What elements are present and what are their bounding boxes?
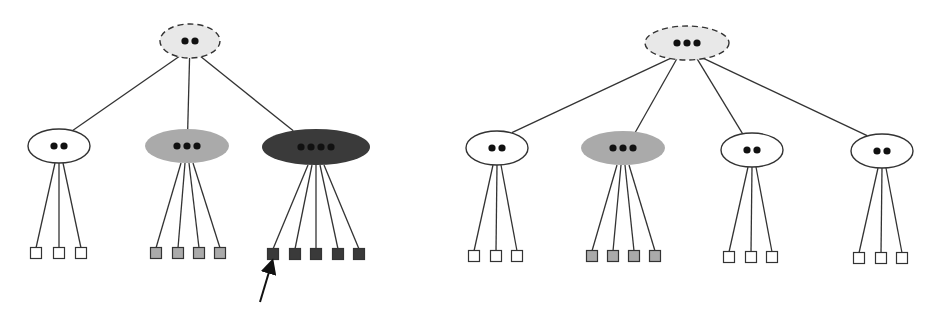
tree-edge — [188, 56, 190, 130]
tree-diagrams-canvas — [0, 0, 940, 318]
leaf-square — [194, 248, 205, 259]
right-tree-child-node-3 — [721, 133, 783, 167]
leaf-edge — [592, 165, 617, 251]
item-dot — [191, 37, 198, 44]
item-dot — [673, 39, 680, 46]
left-tree-child-node-1 — [28, 129, 90, 163]
left-tree-root-node — [160, 24, 220, 58]
leaf-square — [31, 248, 42, 259]
left-tree-child-node-3 — [262, 129, 370, 165]
item-dot — [183, 142, 190, 149]
node-ellipse — [160, 24, 220, 58]
leaf-edge — [756, 167, 772, 252]
leaf-square — [268, 249, 279, 260]
tree-edge — [635, 58, 677, 132]
item-dot — [883, 147, 890, 154]
leaf-edge — [729, 167, 748, 252]
node-ellipse — [28, 129, 90, 163]
leaf-square — [587, 251, 598, 262]
leaf-square — [650, 251, 661, 262]
pointer-arrow-icon — [260, 262, 272, 302]
item-dot — [693, 39, 700, 46]
leaf-square — [311, 249, 322, 260]
left-tree-child-node-2 — [145, 129, 229, 163]
leaf-square — [854, 253, 865, 264]
node-ellipse — [851, 134, 913, 168]
leaf-square — [215, 248, 226, 259]
leaf-edge — [63, 163, 81, 248]
leaf-edge — [295, 165, 312, 249]
leaf-square — [629, 251, 640, 262]
right-tree-child-node-4 — [851, 134, 913, 168]
leaf-square — [290, 249, 301, 260]
item-dot — [683, 39, 690, 46]
item-dot — [743, 146, 750, 153]
item-dot — [753, 146, 760, 153]
leaf-square — [151, 248, 162, 259]
item-dot — [50, 142, 57, 149]
item-dot — [609, 144, 616, 151]
leaf-edge — [501, 165, 517, 251]
leaf-edge — [496, 165, 497, 251]
leaf-edge — [859, 168, 878, 253]
tree-edge — [697, 58, 743, 134]
leaf-edge — [886, 168, 902, 253]
leaf-square — [491, 251, 502, 262]
item-dot — [173, 142, 180, 149]
item-dot — [181, 37, 188, 44]
leaf-edge — [273, 165, 308, 249]
leaf-square — [608, 251, 619, 262]
tree-edge — [72, 56, 179, 130]
leaf-edge — [36, 163, 55, 248]
item-dot — [307, 143, 314, 150]
tree-edge — [512, 58, 671, 132]
item-dot — [60, 142, 67, 149]
leaf-square — [76, 248, 87, 259]
right-tree-child-node-2 — [581, 131, 665, 165]
right-tree-child-node-1 — [466, 131, 528, 165]
node-ellipse — [721, 133, 783, 167]
leaf-edge — [613, 165, 621, 251]
item-dot — [619, 144, 626, 151]
leaf-edge — [751, 167, 752, 252]
leaf-edge — [178, 163, 185, 248]
item-dot — [317, 143, 324, 150]
leaf-edge — [881, 168, 882, 253]
item-dot — [488, 144, 495, 151]
leaf-square — [173, 248, 184, 259]
item-dot — [327, 143, 334, 150]
item-dot — [498, 144, 505, 151]
leaf-edge — [156, 163, 181, 248]
annotation-layer — [260, 262, 272, 302]
right-tree-root-node — [645, 26, 729, 60]
leaf-square — [512, 251, 523, 262]
nodes-layer — [28, 24, 913, 264]
node-ellipse — [466, 131, 528, 165]
item-dot — [629, 144, 636, 151]
leaf-square — [746, 252, 757, 263]
leaf-square — [333, 249, 344, 260]
leaf-square — [876, 253, 887, 264]
item-dot — [873, 147, 880, 154]
leaf-square — [897, 253, 908, 264]
leaf-square — [469, 251, 480, 262]
tree-edge — [704, 58, 868, 135]
leaf-square — [767, 252, 778, 263]
leaf-square — [54, 248, 65, 259]
leaf-square — [354, 249, 365, 260]
item-dot — [193, 142, 200, 149]
node-ellipse — [262, 129, 370, 165]
tree-edge — [200, 56, 293, 131]
leaf-square — [724, 252, 735, 263]
leaf-edge — [474, 165, 493, 251]
item-dot — [297, 143, 304, 150]
